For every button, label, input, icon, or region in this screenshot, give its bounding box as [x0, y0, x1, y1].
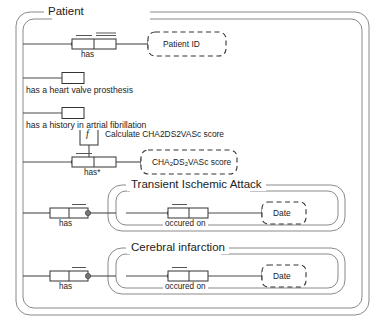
patient-inner-border-left	[23, 19, 52, 308]
fact2-role-label: has a heart valve prosthesis	[25, 86, 134, 95]
tia-occured-role-box[interactable]	[168, 208, 208, 218]
patient-entity-title: Patient	[44, 6, 88, 18]
ci-inner-left	[116, 254, 130, 288]
patient-outer-border-left	[16, 12, 48, 315]
tia-has-role-label: has	[57, 220, 74, 228]
fact3-role-box[interactable]	[62, 108, 84, 119]
ci-occured-role-box[interactable]	[168, 271, 208, 281]
ci-occured-role-label: occured on	[163, 283, 208, 291]
object-chads-score-label: CHA2DS2VASc score	[152, 158, 231, 166]
fact-atrial-fibrillation-history[interactable]	[23, 108, 84, 119]
object-ci-date-label: Date	[273, 272, 291, 280]
object-tia-date-label: Date	[273, 209, 291, 217]
tia-occured-role-label: occured on	[163, 220, 208, 228]
ci-entity-title: Cerebral infarction	[127, 242, 229, 254]
derivation-label: Calculate CHA2DS2VASc score	[103, 130, 226, 138]
ci-has-role-label: has	[57, 283, 74, 291]
tia-outer-right	[122, 185, 345, 231]
object-patient-id-label: Patient ID	[163, 40, 200, 48]
derivation-f-symbol: f	[86, 129, 89, 139]
tia-inner-left	[116, 191, 130, 225]
tia-outer-left	[108, 185, 126, 231]
fact2-role-box[interactable]	[62, 73, 84, 84]
ci-outer-left	[108, 248, 126, 294]
fact-heart-valve-prosthesis[interactable]	[23, 73, 84, 84]
fact1-role-label: has	[79, 51, 96, 59]
tia-has-mandatory-dot	[85, 210, 90, 215]
ci-outer-right	[122, 248, 345, 294]
ci-has-mandatory-dot	[85, 273, 90, 278]
fact4-role-label: has*	[82, 169, 102, 177]
tia-entity-title: Transient Ischemic Attack	[127, 179, 266, 191]
